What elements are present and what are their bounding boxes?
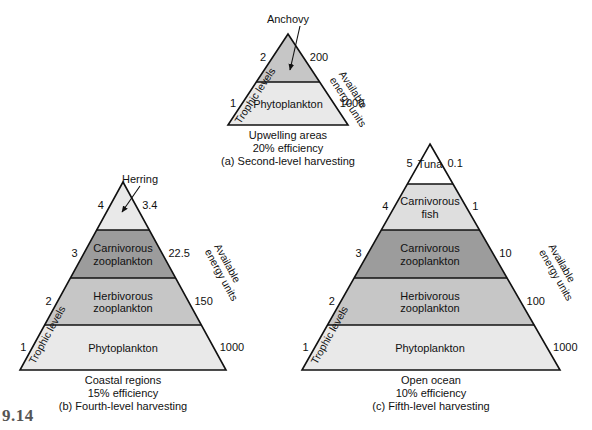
- figure-number: 9.14: [2, 406, 34, 426]
- pyramid-a-caption-region: Upwelling areas: [221, 129, 355, 142]
- pyramid-c-band-label-4: Carnivorousfish: [400, 195, 459, 220]
- pyramid-c-caption-efficiency: 10% efficiency: [372, 387, 489, 400]
- pyramid-c-trophic-1: 1: [303, 341, 309, 354]
- pyramid-b-energy-1: 1000: [220, 341, 244, 354]
- pyramid-a-callout-label: Anchovy: [267, 13, 309, 26]
- pyramid-b-trophic-2: 2: [45, 295, 51, 308]
- pyramid-b-band-label-3: Carnivorouszooplankton: [93, 242, 152, 267]
- pyramid-c-band-label-1: Phytoplankton: [395, 341, 465, 354]
- pyramid-c-band-label-3: Carnivorouszooplankton: [400, 242, 459, 267]
- pyramid-a-caption-label: (a) Second-level harvesting: [221, 155, 355, 168]
- pyramid-c-caption: Open ocean10% efficiency(c) Fifth-level …: [372, 374, 489, 413]
- pyramid-c-energy-1: 1000: [553, 341, 577, 354]
- pyramid-b-callout-label: Herring: [122, 173, 158, 186]
- pyramid-b-trophic-1: 1: [20, 341, 26, 354]
- pyramid-c-energy-2: 100: [527, 295, 545, 308]
- pyramid-b-band-label-2: Herbivorouszooplankton: [93, 289, 152, 314]
- pyramid-c-caption-label: (c) Fifth-level harvesting: [372, 400, 489, 413]
- pyramid-b-trophic-4: 4: [98, 199, 104, 212]
- pyramid-a-caption-efficiency: 20% efficiency: [221, 142, 355, 155]
- pyramid-c-trophic-5: 5: [407, 157, 413, 170]
- pyramid-c-energy-4: 1: [472, 200, 478, 213]
- pyramid-vector-layer: [0, 0, 592, 430]
- pyramid-b-caption-label: (b) Fourth-level harvesting: [59, 400, 187, 413]
- pyramid-b-caption-efficiency: 15% efficiency: [59, 387, 187, 400]
- pyramid-c-caption-region: Open ocean: [372, 374, 489, 387]
- pyramid-a-band-label-1: Phytoplankton: [253, 97, 323, 110]
- pyramid-a-caption: Upwelling areas20% efficiency(a) Second-…: [221, 129, 355, 168]
- pyramid-b-energy-2: 150: [194, 295, 212, 308]
- pyramid-c-trophic-4: 4: [382, 200, 388, 213]
- pyramid-a-trophic-1: 1: [230, 97, 236, 110]
- pyramid-a-energy-2: 200: [310, 51, 328, 64]
- pyramid-b-caption-region: Coastal regions: [59, 374, 187, 387]
- pyramid-c-energy-3: 10: [499, 247, 511, 260]
- pyramid-b-energy-4: 3.4: [142, 199, 157, 212]
- pyramid-b-trophic-3: 3: [71, 247, 77, 260]
- pyramid-c-energy-5: 0.1: [448, 157, 463, 170]
- pyramid-b-band-label-1: Phytoplankton: [88, 341, 158, 354]
- pyramid-c-band-label-2: Herbivorouszooplankton: [400, 289, 459, 314]
- pyramid-c-band-label-5: Tuna: [418, 158, 443, 171]
- energy-pyramid-figure: Phytoplankton212001000Trophic levelsAvai…: [0, 0, 592, 430]
- pyramid-a-trophic-2: 2: [260, 51, 266, 64]
- pyramid-b-energy-3: 22.5: [168, 247, 189, 260]
- pyramid-c-trophic-2: 2: [329, 295, 335, 308]
- pyramid-b-caption: Coastal regions15% efficiency(b) Fourth-…: [59, 374, 187, 413]
- pyramid-c-trophic-3: 3: [356, 247, 362, 260]
